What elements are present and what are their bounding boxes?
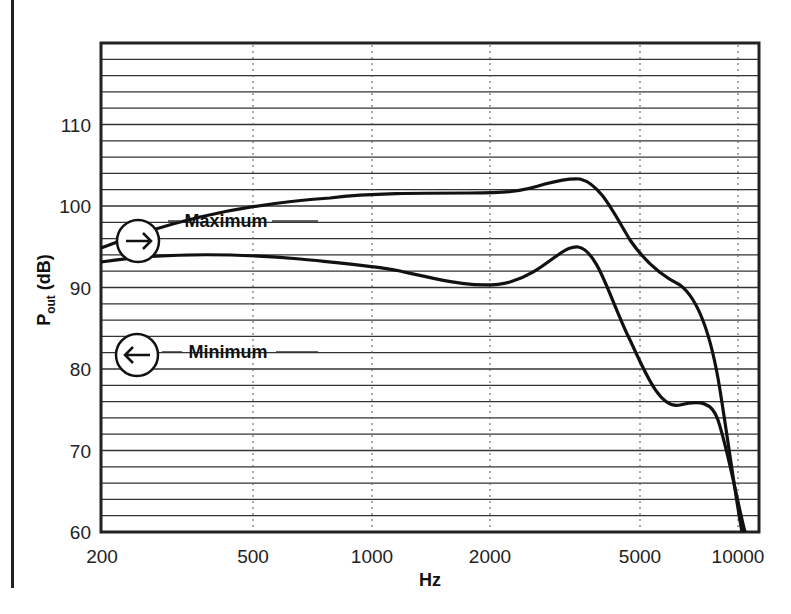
x-tick-label: 10000	[712, 546, 765, 567]
x-tick-label: 2000	[469, 546, 511, 567]
svg-text:Minimum: Minimum	[189, 342, 268, 362]
y-tick-label: 100	[59, 196, 91, 217]
chart: 60708090100110 20050010002000500010000 H…	[0, 0, 791, 614]
x-tick-label: 500	[237, 546, 269, 567]
horizontal-gridlines	[101, 59, 759, 515]
y-axis-label: Pout (dB)	[34, 254, 58, 326]
y-tick-label: 90	[70, 278, 91, 299]
x-tick-label: 200	[86, 546, 118, 567]
y-tick-label: 70	[70, 441, 91, 462]
y-tick-label: 60	[70, 522, 91, 543]
y-axis-ticks: 60708090100110	[59, 115, 91, 544]
x-tick-label: 1000	[351, 546, 393, 567]
y-tick-label: 110	[61, 115, 91, 136]
y-tick-label: 80	[70, 359, 91, 380]
svg-text:Pout (dB): Pout (dB)	[34, 254, 58, 326]
x-tick-label: 5000	[619, 546, 661, 567]
series-minimum-line	[101, 247, 745, 532]
svg-text:Maximum: Maximum	[184, 211, 267, 231]
x-axis-label: Hz	[419, 570, 441, 590]
x-axis-ticks: 20050010002000500010000	[86, 546, 764, 567]
annotation-minimum: Minimum	[116, 334, 318, 376]
